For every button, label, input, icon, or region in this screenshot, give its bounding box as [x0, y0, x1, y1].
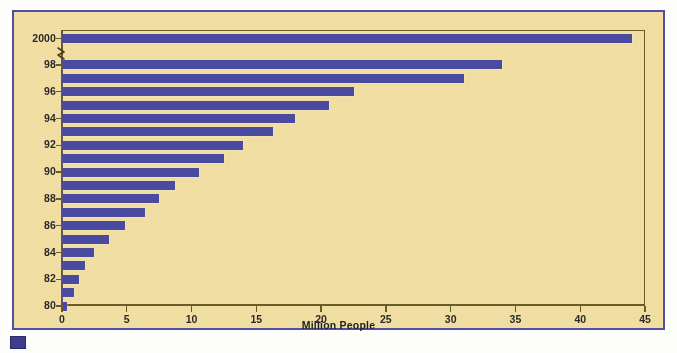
paper-texture-overlay	[14, 12, 663, 328]
chart-page: 200098969492908886848280 051015202530354…	[0, 0, 677, 353]
color-swatch-icon	[10, 336, 26, 349]
figure-frame	[12, 10, 665, 330]
x-axis-title: Million People	[0, 319, 677, 331]
